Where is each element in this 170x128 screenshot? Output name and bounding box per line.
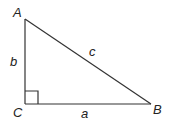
side-label-c: c [89,44,96,59]
side-label-b: b [10,54,17,69]
triangle-sides [25,19,151,104]
side-c [25,19,151,104]
vertex-label-c: C [13,105,23,120]
triangle-diagram: A B C a b c [0,0,170,128]
vertex-label-a: A [12,5,22,20]
side-label-a: a [81,106,88,121]
vertex-label-b: B [153,102,162,117]
right-angle-marker [25,91,38,104]
